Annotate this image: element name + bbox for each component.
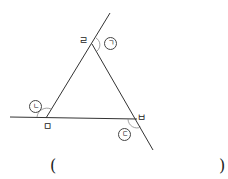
angle-arc-a xyxy=(96,38,100,51)
answer-open-paren: ( xyxy=(50,158,56,174)
angle-label-c: ㄷ xyxy=(118,128,131,141)
vertex-label-top: ㄹ xyxy=(79,36,88,46)
triangle-diagram xyxy=(0,0,228,179)
line-left-extended xyxy=(46,13,110,118)
answer-close-paren: ) xyxy=(219,158,225,174)
vertex-label-right: ㅂ xyxy=(137,113,146,123)
vertex-label-left: ㅁ xyxy=(43,122,52,132)
angle-label-b: ㄴ xyxy=(29,100,42,113)
angle-label-a: ㄱ xyxy=(104,37,117,50)
line-base-extended xyxy=(10,117,137,119)
